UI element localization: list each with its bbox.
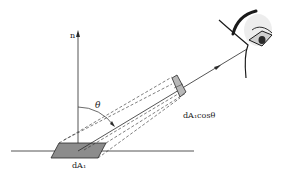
normal-arrow-icon <box>76 30 80 37</box>
observer-eye-icon <box>219 11 272 78</box>
source-area-label: dA₁ <box>72 161 86 170</box>
angle-label: θ <box>95 100 101 110</box>
center-ray <box>78 49 247 151</box>
projected-area <box>172 75 186 97</box>
ray-arrow-icon <box>214 65 221 70</box>
projected-area-label: dA₁cosθ <box>183 111 216 120</box>
normal-label: n <box>70 31 75 40</box>
radiation-projection-diagram: n θ dA₁cosθ dA₁ <box>0 0 283 180</box>
normal-axis: n <box>70 30 80 151</box>
